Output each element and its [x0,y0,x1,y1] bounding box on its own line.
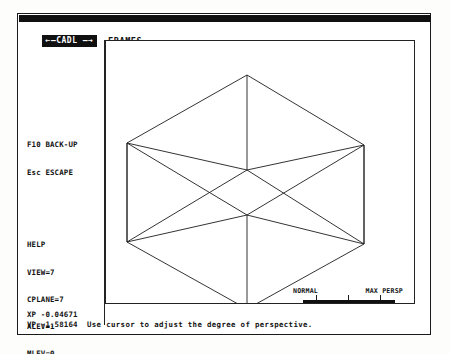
cube-edge-floor-right [247,215,364,244]
readout-xp: XP -0.04671 [27,310,78,319]
cube-edge-diag-right-down [247,145,364,215]
sidebar-item-esc-escape[interactable]: Esc ESCAPE [27,168,101,177]
cube-edge-diag-right-up [247,170,364,244]
mouse-cursor-icon [330,303,341,304]
cube-edge-floor-left [127,215,247,242]
cube-edge-ceiling-left [127,143,247,170]
cadl-logo-button[interactable]: ←–CADL –→ [42,35,97,47]
slider-label-normal: NORMAL [293,287,318,295]
cad-application-screen: ←–CADL –→ FRAMES F10 BACK-UP Esc ESCAPE … [17,13,431,335]
cube-edge-diag-left-down [127,143,247,215]
page-background: ←–CADL –→ FRAMES F10 BACK-UP Esc ESCAPE … [0,0,450,354]
status-message: Use cursor to adjust the degree of persp… [87,320,313,329]
slider-scale-segment-left [308,303,341,304]
wireframe-cube-drawing [106,41,414,303]
sidebar-item-f10-backup[interactable]: F10 BACK-UP [27,140,101,149]
menu-bar: ←–CADL –→ FRAMES [18,24,432,40]
title-bar [19,15,431,22]
slider-track[interactable] [303,300,395,304]
sidebar-item-cplane[interactable]: CPLANE=7 [27,295,101,304]
cube-edge-ceiling-right [247,145,364,170]
sidebar-item-help[interactable]: HELP [27,240,101,249]
readout-vp: VP -1.58164 [27,320,78,329]
cube-outer-silhouette [127,75,364,303]
sidebar-item-view[interactable]: VIEW=7 [27,268,101,277]
sidebar-item-mlev[interactable]: MLEV=0 [27,349,101,354]
slider-scale-segment-right [350,303,383,304]
sidebar-key-group: F10 BACK-UP Esc ESCAPE [27,122,101,195]
cube-edge-diag-left-up [127,170,247,242]
drawing-viewport[interactable]: NORMAL MAX PERSP [105,40,415,304]
slider-label-max-persp: MAX PERSP [365,287,403,295]
sidebar-status-group: HELP VIEW=7 CPLANE=7 ALEV=1 MLEV=0 COLOR… [27,222,101,354]
perspective-slider[interactable]: NORMAL MAX PERSP [293,287,403,304]
